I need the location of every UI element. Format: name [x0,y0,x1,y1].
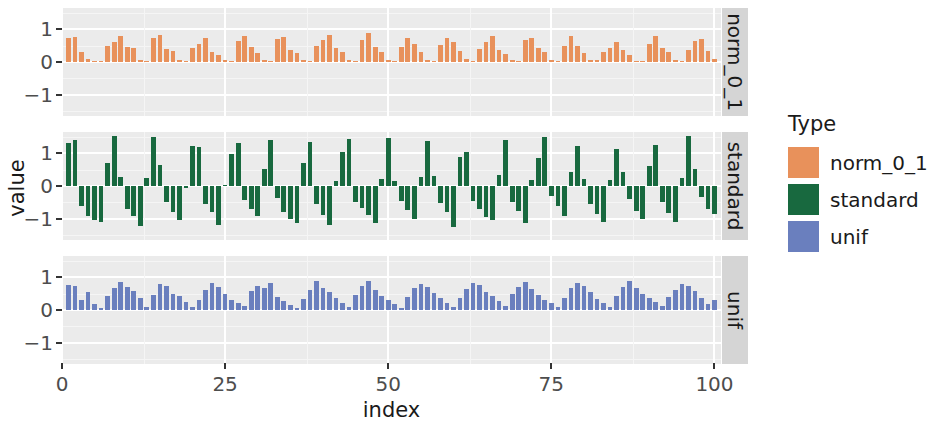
bar [151,38,156,62]
bar [399,47,404,62]
bar [516,287,521,310]
bar [673,60,678,62]
facet-strip-unif: unif [722,256,748,364]
gridline-minor-horizontal [62,202,721,203]
bar [510,294,515,310]
y-tick-label: 0 [9,298,53,322]
bar [634,288,639,310]
bar [686,50,691,62]
bar [510,186,515,202]
bar [223,60,228,62]
bar [353,186,358,202]
facet-strip-norm_0_1: norm_0_1 [722,8,748,116]
bar [118,36,123,62]
bar [542,137,547,186]
bar [144,307,149,310]
bar [262,169,267,186]
bar [197,44,202,62]
bar [301,163,306,186]
gridline-minor-horizontal [62,137,721,138]
bar [216,55,221,62]
bar [432,176,437,186]
facet-panel-norm_0_1 [62,8,721,116]
bar [445,303,450,310]
legend-items: norm_0_1standardunif [788,144,928,255]
legend-key-swatch [788,221,819,252]
bar [425,287,430,310]
bar [73,140,78,186]
y-tick-mark [56,276,62,278]
bar [497,175,502,186]
bar [523,282,528,310]
bar [177,186,182,220]
x-tick-label: 50 [376,372,401,396]
bar [549,186,554,196]
y-tick-mark [56,218,62,220]
bar [503,140,508,186]
bar [634,61,639,62]
bar [490,36,495,62]
bar [497,50,502,62]
legend-item-label: unif [830,225,868,249]
plot-area [62,8,721,116]
bar [105,163,110,186]
y-tick-label: 1 [9,265,53,289]
bar [536,48,541,62]
bar [210,186,215,212]
bar [184,186,189,188]
bar [216,186,221,225]
gridline-major-vertical [224,8,226,116]
gridline-major-horizontal [62,276,721,278]
bar [458,51,463,62]
gridline-major-vertical [713,8,715,116]
bar [621,172,626,186]
bar [601,186,606,222]
bar [471,283,476,310]
bar [425,60,430,62]
bar [301,299,306,310]
y-tick-label: −1 [9,83,53,107]
gridline-major-vertical [62,8,63,116]
legend-key-swatch [788,184,819,215]
y-tick-mark [56,94,62,96]
bar [334,48,339,62]
gridline-minor-vertical [144,8,145,116]
y-tick-label: 1 [9,141,53,165]
bar [471,61,476,62]
bar [640,61,645,62]
bar [601,303,606,310]
bar [484,292,489,310]
bar [556,186,561,206]
bar [451,307,456,310]
bar [660,186,665,202]
gridline-minor-vertical [307,256,308,364]
bar [666,186,671,213]
bar [477,186,482,209]
bar [386,138,391,186]
gridline-major-vertical [713,256,715,364]
bar [184,302,189,310]
bar [386,300,391,310]
bar [177,296,182,310]
legend-item-standard[interactable]: standard [788,181,928,218]
x-tick-mark [224,363,226,369]
bar [575,283,580,310]
bar [203,38,208,62]
gridline-major-vertical [550,256,552,364]
bar [569,172,574,186]
bar [295,308,300,310]
legend-item-norm_0_1[interactable]: norm_0_1 [788,144,928,181]
bar [595,299,600,310]
bar [556,61,561,62]
bar [647,166,652,186]
bar [262,60,267,62]
bar [151,295,156,310]
bar [640,186,645,219]
bar [536,158,541,186]
bar [125,47,130,62]
bar [379,52,384,62]
bar [268,61,273,62]
legend-item-unif[interactable]: unif [788,218,928,255]
bar [516,186,521,211]
legend-item-label: standard [830,188,919,212]
